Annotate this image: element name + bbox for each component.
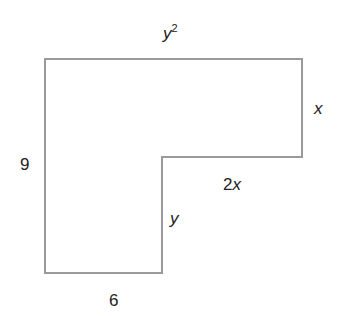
l-shape-outline (45, 59, 302, 273)
label-step-y: y (170, 210, 179, 227)
label-left-9: 9 (20, 156, 29, 173)
l-shape-figure (0, 0, 346, 316)
label-step-2x: 2x (223, 176, 241, 193)
label-top-y-squared: y2 (163, 23, 178, 42)
label-bottom-6: 6 (109, 292, 118, 309)
label-right-x: x (314, 100, 323, 117)
